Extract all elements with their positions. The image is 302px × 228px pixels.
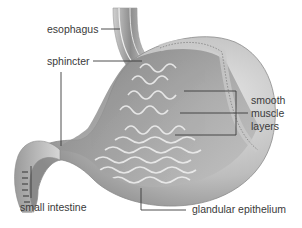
sphincter-label: sphincter xyxy=(47,55,90,67)
stomach-diagram: esophagus sphincter smooth muscle layers… xyxy=(0,0,302,228)
esophagus-label: esophagus xyxy=(47,23,98,35)
small-intestine-label: small intestine xyxy=(20,201,87,213)
smooth-muscle-label-2: muscle xyxy=(251,107,284,119)
glandular-epithelium-label: glandular epithelium xyxy=(192,203,286,215)
smooth-muscle-label-1: smooth xyxy=(251,94,286,106)
smooth-muscle-label-3: layers xyxy=(251,120,279,132)
